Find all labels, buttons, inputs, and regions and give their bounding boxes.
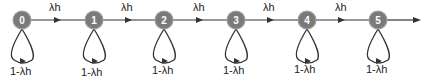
arrow-head-icon	[338, 17, 345, 23]
arrow-head-icon	[125, 17, 132, 23]
self-loops	[12, 29, 390, 63]
state-label-5: 5	[375, 15, 381, 26]
state-node-1: 1	[85, 11, 103, 29]
state-label-1: 1	[91, 15, 97, 26]
self-loop-5	[368, 29, 390, 63]
loop-label-5: 1-λh	[366, 63, 387, 75]
self-loop-3	[226, 29, 248, 63]
state-node-5: 5	[369, 11, 387, 29]
edge-label-3-4: λh	[263, 1, 275, 13]
self-loop-0	[12, 29, 34, 63]
loop-label-2: 1-λh	[152, 64, 173, 76]
arrow-head-icon	[413, 17, 421, 23]
self-loop-1	[84, 29, 106, 63]
arrow-head-icon	[267, 17, 274, 23]
arrow-head-icon	[54, 17, 61, 23]
state-label-2: 2	[161, 15, 167, 26]
edge-label-4-5: λh	[335, 1, 347, 13]
state-node-2: 2	[155, 11, 173, 29]
edge-label-2-3: λh	[193, 1, 205, 13]
loop-label-3: 1-λh	[223, 64, 244, 76]
loop-arrow-heads	[20, 58, 382, 64]
state-label-4: 4	[304, 15, 310, 26]
self-loop-4	[297, 29, 319, 63]
arrow-head-icon	[196, 17, 203, 23]
state-node-0: 0	[13, 11, 31, 29]
loop-label-4: 1-λh	[294, 63, 315, 75]
loop-label-1: 1-λh	[81, 66, 102, 78]
state-node-4: 4	[298, 11, 316, 29]
edge-label-1-2: λh	[121, 1, 133, 13]
loop-label-0: 1-λh	[10, 65, 31, 77]
state-label-3: 3	[233, 15, 239, 26]
self-loop-2	[154, 29, 176, 63]
edge-label-0-1: λh	[49, 1, 61, 13]
markov-chain-diagram: λh λh λh λh λh 1-λh 1-λh 1-λh 1-λh 1-λh …	[0, 0, 431, 82]
state-node-3: 3	[227, 11, 245, 29]
loop-labels: 1-λh 1-λh 1-λh 1-λh 1-λh 1-λh	[10, 63, 387, 78]
state-label-0: 0	[19, 15, 25, 26]
